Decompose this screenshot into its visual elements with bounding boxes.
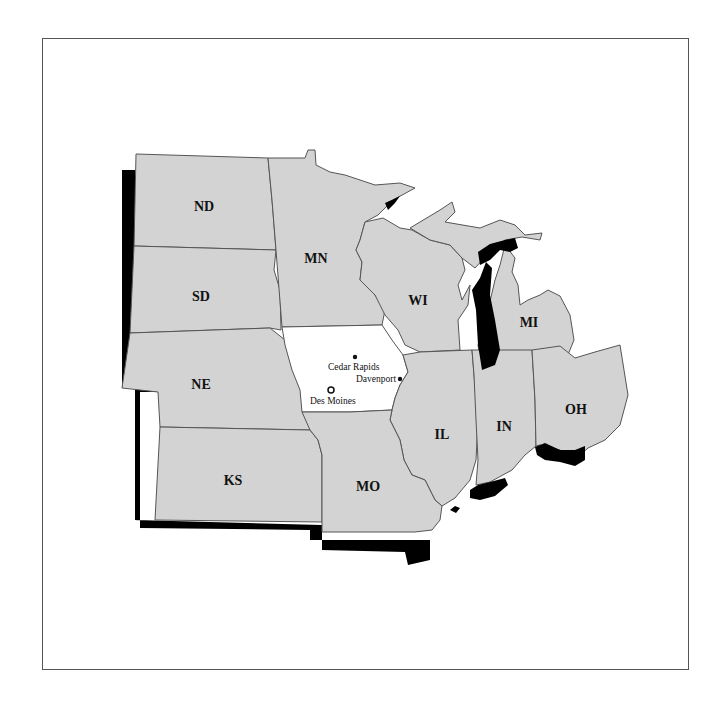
- label-il: IL: [435, 427, 450, 442]
- ohio-river-il: [450, 506, 460, 513]
- label-ne: NE: [191, 377, 210, 392]
- city-dot-icon: [398, 377, 402, 381]
- state-in[interactable]: [472, 350, 536, 485]
- label-wi: WI: [408, 293, 427, 308]
- label-nd: ND: [194, 199, 214, 214]
- label-sd: SD: [192, 289, 210, 304]
- city-davenport: Davenport: [356, 374, 396, 384]
- capital-star-icon: [328, 387, 334, 393]
- city-dot-icon: [353, 355, 357, 359]
- label-mi: MI: [520, 315, 539, 330]
- label-ks: KS: [224, 473, 243, 488]
- state-ne[interactable]: [122, 328, 310, 430]
- midwest-map: ND SD NE KS MN WI MI IL IN OH MO Cedar R…: [0, 0, 719, 707]
- label-in: IN: [496, 419, 512, 434]
- label-mo: MO: [356, 479, 380, 494]
- city-cedar-rapids: Cedar Rapids: [328, 362, 380, 372]
- city-des-moines: Des Moines: [310, 396, 356, 406]
- label-mn: MN: [304, 251, 327, 266]
- label-oh: OH: [565, 402, 587, 417]
